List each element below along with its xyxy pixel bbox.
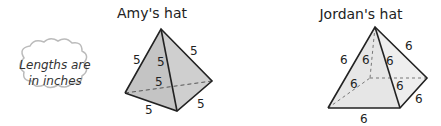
jordan-edge-label: 6 bbox=[386, 54, 394, 68]
jordan-edge-label: 6 bbox=[396, 79, 404, 93]
amy-hat-title: Amy's hat bbox=[117, 5, 188, 21]
jordan-edge-label: 6 bbox=[405, 39, 413, 53]
jordan-edge-label: 6 bbox=[350, 77, 358, 91]
note-line-2: in inches bbox=[28, 74, 82, 88]
amy-hat: Amy's hat 5 5 5 5 5 5 bbox=[117, 5, 212, 117]
jordan-edge-label: 6 bbox=[415, 92, 423, 106]
amy-edge-label: 5 bbox=[190, 44, 198, 58]
note-line-1: Lengths are bbox=[19, 58, 90, 72]
jordan-edge-label: 6 bbox=[340, 53, 348, 67]
amy-edge-label: 5 bbox=[157, 55, 165, 69]
hats-diagram: Lengths are in inches Amy's hat 5 5 5 5 … bbox=[0, 0, 441, 126]
amy-edge-label: 5 bbox=[133, 53, 141, 67]
jordan-edge-label: 6 bbox=[360, 112, 368, 126]
lengths-note-cloud: Lengths are in inches bbox=[19, 39, 90, 88]
amy-edge-label: 5 bbox=[197, 97, 205, 111]
amy-edge-label: 5 bbox=[155, 75, 163, 89]
jordan-edge-label: 6 bbox=[362, 53, 370, 67]
jordan-hat: Jordan's hat 6 6 6 6 6 6 6 6 bbox=[318, 6, 427, 126]
amy-edge-label: 5 bbox=[145, 103, 153, 117]
jordan-hat-title: Jordan's hat bbox=[318, 6, 403, 22]
